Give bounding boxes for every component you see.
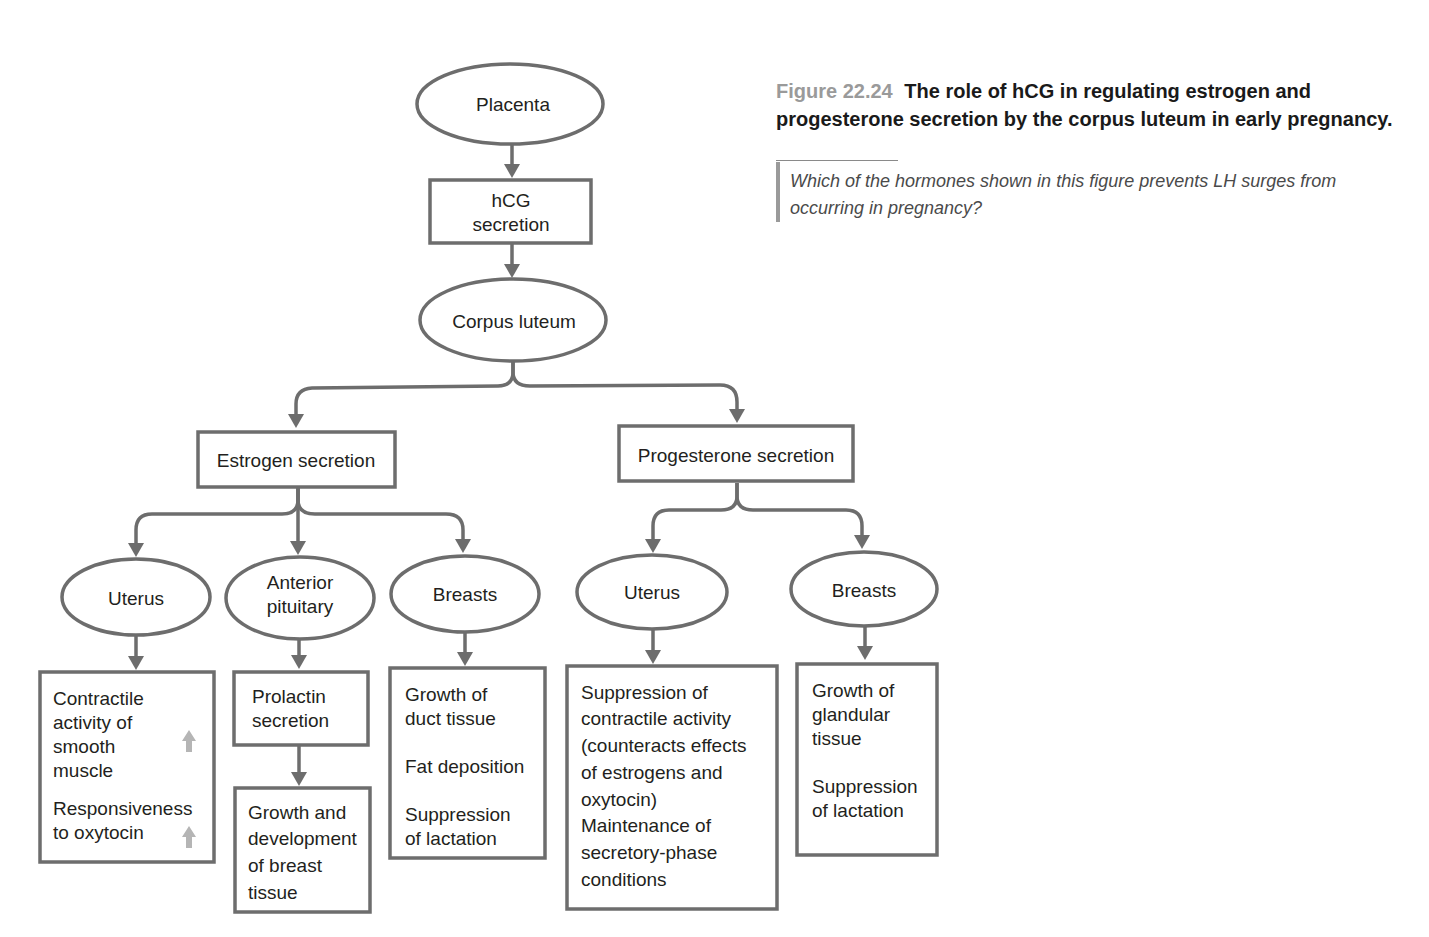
node-label: oxytocin) [581, 789, 657, 810]
arrowhead-icon [291, 772, 307, 786]
node-anterior-pituitary: Anterior pituitary [226, 557, 374, 639]
arrowhead-icon [290, 541, 306, 555]
arrowhead-icon [645, 539, 661, 553]
node-label: tissue [812, 728, 862, 749]
node-label: Fat deposition [405, 756, 524, 777]
node-label: of lactation [812, 800, 904, 821]
node-label: conditions [581, 869, 667, 890]
node-estrogen-secretion: Estrogen secretion [198, 432, 395, 487]
node-estrogen-uterus: Uterus [62, 559, 210, 635]
arrow-progesterone-to-uterus [653, 483, 737, 540]
arrowhead-icon [128, 543, 144, 557]
node-label: Placenta [476, 94, 550, 115]
arrowhead-icon [645, 650, 661, 664]
question-text: Which of the hormones shown in this figu… [790, 168, 1390, 222]
node-placenta: Placenta [417, 64, 603, 144]
question-rule [776, 160, 898, 161]
question-bar [776, 162, 780, 222]
node-estrogen-breasts-effects: Growth of duct tissue Fat deposition Sup… [390, 668, 545, 858]
node-label: Suppression [405, 804, 511, 825]
node-label: (counteracts effects [581, 735, 746, 756]
arrowhead-icon [291, 655, 307, 669]
node-estrogen-breasts: Breasts [391, 556, 539, 632]
node-label: smooth [53, 736, 115, 757]
node-prolactin-secretion: Prolactin secretion [234, 672, 368, 745]
node-label: Uterus [624, 582, 680, 603]
node-label: secretion [472, 214, 549, 235]
node-label: Estrogen secretion [217, 450, 375, 471]
node-hcg-secretion: hCG secretion [430, 180, 591, 243]
node-label: muscle [53, 760, 113, 781]
node-label: Suppression of [581, 682, 708, 703]
node-label: Contractile [53, 688, 144, 709]
node-progesterone-uterus-effects: Suppression of contractile activity (cou… [567, 666, 777, 909]
node-label: pituitary [267, 596, 334, 617]
arrowhead-icon [455, 539, 471, 553]
arrowhead-icon [504, 164, 520, 178]
node-label: contractile activity [581, 708, 731, 729]
arrowhead-icon [729, 409, 745, 423]
node-label: to oxytocin [53, 822, 144, 843]
arrowhead-icon [854, 535, 870, 549]
node-corpus-luteum: Corpus luteum [420, 279, 606, 361]
node-label: Prolactin [252, 686, 326, 707]
arrow-corpus-luteum-to-progesterone [513, 362, 737, 410]
node-label: secretion [252, 710, 329, 731]
arrow-corpus-luteum-to-estrogen [296, 362, 513, 416]
node-label: glandular [812, 704, 891, 725]
node-label: Growth and [248, 802, 346, 823]
arrow-progesterone-to-breasts [737, 483, 862, 536]
node-label: Growth of [812, 680, 895, 701]
node-label: secretory-phase [581, 842, 717, 863]
node-label: hCG [491, 190, 530, 211]
hcg-regulation-flowchart: Placenta hCG secretion Corpus luteum Est… [0, 0, 1429, 937]
node-label: activity of [53, 712, 133, 733]
node-label: of lactation [405, 828, 497, 849]
arrow-estrogen-to-uterus [136, 488, 298, 544]
node-label: Uterus [108, 588, 164, 609]
node-label: Maintenance of [581, 815, 712, 836]
arrowhead-icon [128, 656, 144, 670]
node-label: Progesterone secretion [638, 445, 834, 466]
figure-number: Figure 22.24 [776, 80, 893, 102]
node-label: Suppression [812, 776, 918, 797]
node-label: Breasts [433, 584, 497, 605]
figure-caption: Figure 22.24 The role of hCG in regulati… [776, 77, 1396, 133]
node-estrogen-uterus-effects: Contractile activity of smooth muscle Re… [40, 672, 214, 862]
node-label: Breasts [832, 580, 896, 601]
node-progesterone-breasts: Breasts [791, 552, 937, 626]
arrowhead-icon [857, 646, 873, 660]
node-label: of breast [248, 855, 323, 876]
node-progesterone-secretion: Progesterone secretion [619, 426, 853, 481]
node-label: of estrogens and [581, 762, 723, 783]
node-breast-development: Growth and development of breast tissue [235, 788, 370, 912]
arrow-estrogen-to-breasts [298, 488, 463, 541]
arrowhead-icon [504, 264, 520, 278]
node-progesterone-breasts-effects: Growth of glandular tissue Suppression o… [797, 664, 937, 855]
node-label: Anterior [267, 572, 334, 593]
node-label: Responsiveness [53, 798, 192, 819]
node-label: tissue [248, 882, 298, 903]
arrowhead-icon [457, 652, 473, 666]
arrowhead-icon [288, 414, 304, 428]
node-label: development [248, 828, 358, 849]
node-label: Growth of [405, 684, 488, 705]
node-label: Corpus luteum [452, 311, 576, 332]
node-label: duct tissue [405, 708, 496, 729]
node-progesterone-uterus: Uterus [577, 555, 727, 629]
